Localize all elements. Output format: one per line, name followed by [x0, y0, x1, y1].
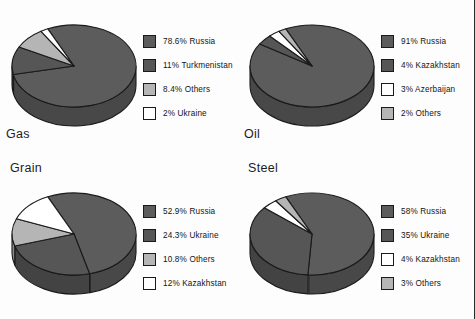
chart-panel-steel: Steel 58% Russia35% Ukraine4% Kazakhstan… [238, 160, 475, 319]
pie-svg-steel [244, 182, 384, 302]
pie-chart-grain [6, 182, 146, 302]
legend-swatch-russia [381, 35, 394, 48]
pie-svg-grain [6, 182, 146, 302]
chart-panel-oil: Oil 91% Russia4% Kazakhstan3% Azerbaijan… [238, 0, 475, 159]
legend-item: 4% Kazakhstan [381, 248, 475, 271]
legend-swatch-turkmenistan [143, 59, 156, 72]
legend-item: 78.6% Russia [143, 30, 237, 53]
chart-title-gas: Gas [6, 127, 30, 141]
legend-item: 2% Ukraine [143, 102, 237, 125]
legend-gas: 78.6% Russia11% Turkmenistan8.4% Others2… [143, 30, 237, 126]
legend-label: 91% Russia [401, 37, 446, 46]
chart-title-oil: Oil [244, 127, 260, 141]
legend-label: 4% Kazakhstan [401, 61, 460, 70]
pie-svg-oil [244, 14, 384, 134]
legend-swatch-ukraine [143, 107, 156, 120]
pie-chart-steel [244, 182, 384, 302]
legend-swatch-russia [143, 205, 156, 218]
legend-swatch-others [381, 107, 394, 120]
pie-chart-oil [244, 14, 384, 134]
legend-swatch-ukraine [143, 229, 156, 242]
legend-item: 52.9% Russia [143, 200, 237, 223]
pie-svg-gas [6, 14, 146, 134]
legend-label: 2% Others [401, 109, 441, 118]
legend-label: 12% Kazakhstan [163, 279, 227, 288]
chart-panel-gas: Gas 78.6% Russia11% Turkmenistan8.4% Oth… [0, 0, 237, 159]
legend-swatch-russia [381, 205, 394, 218]
legend-swatch-kazakhstan [143, 277, 156, 290]
legend-swatch-russia [143, 35, 156, 48]
chart-title-steel: Steel [248, 161, 278, 175]
legend-swatch-others [381, 277, 394, 290]
legend-item: 3% Others [381, 272, 475, 295]
legend-item: 35% Ukraine [381, 224, 475, 247]
legend-swatch-azerbaijan [381, 83, 394, 96]
legend-item: 12% Kazakhstan [143, 272, 237, 295]
legend-item: 10.8% Others [143, 248, 237, 271]
legend-label: 8.4% Others [163, 85, 210, 94]
pie-chart-gas [6, 14, 146, 134]
legend-label: 52.9% Russia [163, 207, 215, 216]
legend-item: 58% Russia [381, 200, 475, 223]
legend-item: 2% Others [381, 102, 475, 125]
legend-label: 58% Russia [401, 207, 446, 216]
legend-item: 91% Russia [381, 30, 475, 53]
chart-panel-grain: Grain 52.9% Russia24.3% Ukraine10.8% Oth… [0, 160, 237, 319]
legend-swatch-others [143, 253, 156, 266]
legend-label: 4% Kazakhstan [401, 255, 460, 264]
legend-steel: 58% Russia35% Ukraine4% Kazakhstan3% Oth… [381, 200, 475, 296]
legend-grain: 52.9% Russia24.3% Ukraine10.8% Others12%… [143, 200, 237, 296]
legend-label: 24.3% Ukraine [163, 231, 219, 240]
chart-title-grain: Grain [10, 161, 42, 175]
legend-swatch-kazakhstan [381, 253, 394, 266]
legend-item: 4% Kazakhstan [381, 54, 475, 77]
legend-label: 2% Ukraine [163, 109, 207, 118]
legend-label: 10.8% Others [163, 255, 215, 264]
legend-swatch-kazakhstan [381, 59, 394, 72]
legend-label: 3% Others [401, 279, 441, 288]
legend-swatch-others [143, 83, 156, 96]
legend-label: 78.6% Russia [163, 37, 215, 46]
page-canvas: Gas 78.6% Russia11% Turkmenistan8.4% Oth… [0, 0, 475, 319]
legend-oil: 91% Russia4% Kazakhstan3% Azerbaijan2% O… [381, 30, 475, 126]
legend-swatch-ukraine [381, 229, 394, 242]
legend-label: 11% Turkmenistan [163, 61, 233, 70]
legend-label: 3% Azerbaijan [401, 85, 455, 94]
legend-item: 3% Azerbaijan [381, 78, 475, 101]
legend-item: 8.4% Others [143, 78, 237, 101]
legend-label: 35% Ukraine [401, 231, 450, 240]
legend-item: 24.3% Ukraine [143, 224, 237, 247]
legend-item: 11% Turkmenistan [143, 54, 237, 77]
